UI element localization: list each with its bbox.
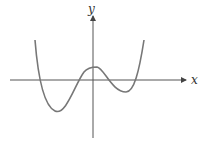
y-axis-label: y (87, 2, 95, 16)
function-graph: x y (0, 0, 202, 141)
x-axis-label: x (191, 73, 198, 87)
function-curve (35, 40, 144, 112)
